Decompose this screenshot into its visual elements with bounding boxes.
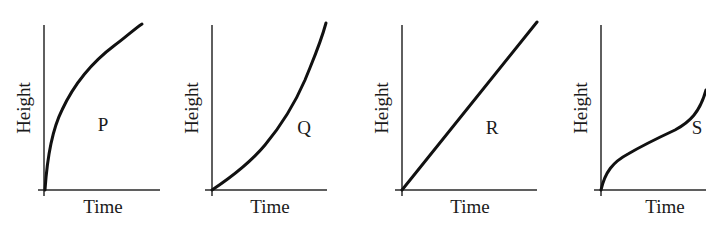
graph-q: Height Time Q	[181, 23, 327, 217]
graph-label-r: R	[486, 117, 499, 138]
graph-r: Height Time R	[371, 22, 537, 217]
curve-r	[402, 22, 537, 190]
x-axis-label: Time	[83, 196, 122, 217]
y-axis-label: Height	[181, 81, 202, 133]
y-axis-label: Height	[371, 81, 392, 133]
graph-p: Height Time P	[13, 24, 160, 217]
y-axis-label: Height	[570, 81, 591, 133]
graph-label-p: P	[98, 114, 109, 135]
curve-s	[601, 90, 706, 190]
height-time-graphs-figure: Height Time P Height Time Q Height Time …	[0, 0, 706, 228]
graph-label-s: S	[692, 117, 703, 138]
x-axis-label: Time	[645, 196, 684, 217]
x-axis-label: Time	[450, 196, 489, 217]
graph-label-q: Q	[297, 117, 311, 138]
curve-p	[45, 24, 142, 190]
curve-q	[212, 23, 326, 190]
y-axis-label: Height	[13, 81, 34, 133]
x-axis-label: Time	[250, 196, 289, 217]
graph-s: Height Time S	[570, 25, 706, 217]
